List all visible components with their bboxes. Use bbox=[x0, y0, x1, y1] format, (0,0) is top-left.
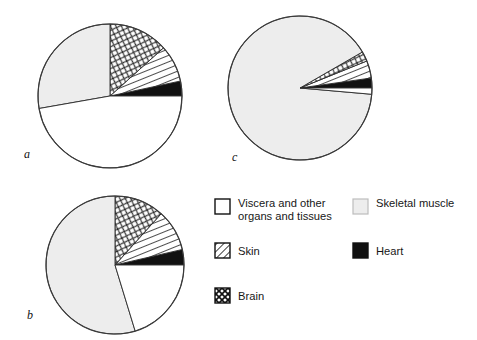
pie-panel-a: a bbox=[24, 24, 182, 168]
legend-label-heart: Heart bbox=[376, 245, 404, 257]
crosshatch-square-swatch bbox=[215, 288, 230, 303]
pie-c-slices bbox=[228, 16, 372, 160]
panel-label-a: a bbox=[24, 147, 30, 161]
pie-chart-figure: a b c bbox=[0, 0, 477, 340]
figure-canvas: a b c bbox=[0, 0, 477, 340]
diagonal-hatch-square-swatch bbox=[215, 243, 230, 258]
legend-label-skeletal-muscle: Skeletal muscle bbox=[376, 197, 454, 209]
pie-b-slices bbox=[46, 196, 184, 334]
legend-item-skin[interactable]: Skin bbox=[215, 243, 260, 258]
legend-label-viscera-line1: Viscera and other bbox=[238, 197, 326, 209]
panel-label-c: c bbox=[232, 150, 238, 164]
pie-a-slice-viscera bbox=[39, 96, 182, 168]
legend-item-heart[interactable]: Heart bbox=[353, 243, 404, 258]
pie-a-slices bbox=[38, 24, 182, 168]
pie-panel-c: c bbox=[228, 16, 372, 164]
legend: Viscera and other organs and tissues Ske… bbox=[215, 197, 454, 303]
legend-label-brain: Brain bbox=[238, 290, 264, 302]
legend-label-skin: Skin bbox=[238, 245, 260, 257]
pie-panel-b: b bbox=[27, 196, 184, 334]
legend-item-skeletal-muscle[interactable]: Skeletal muscle bbox=[353, 197, 454, 214]
legend-item-brain[interactable]: Brain bbox=[215, 288, 264, 303]
black-square-swatch bbox=[353, 243, 368, 258]
panel-label-b: b bbox=[27, 308, 33, 322]
white-square-swatch bbox=[215, 199, 230, 214]
light-gray-square-swatch bbox=[353, 199, 368, 214]
legend-item-viscera[interactable]: Viscera and other organs and tissues bbox=[215, 197, 332, 222]
pie-a-slice-skeletal-muscle bbox=[38, 24, 110, 109]
legend-label-viscera-line2: organs and tissues bbox=[238, 210, 332, 222]
